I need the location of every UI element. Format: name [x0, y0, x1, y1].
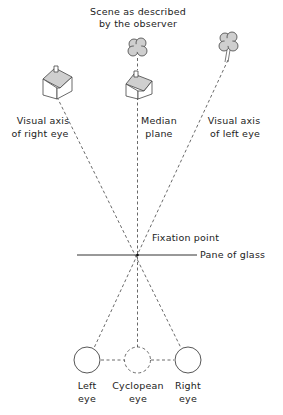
stereo-diagram — [0, 0, 283, 415]
cyclopean-eye-label-line1: Cyclopean — [107, 380, 169, 392]
tree-right-icon — [219, 32, 238, 51]
left-eye-axis — [94, 60, 228, 348]
left-eye-label-line1: Left — [67, 380, 107, 392]
right-axis-label-line2: of right eye — [6, 128, 74, 140]
right-eye-label-line1: Right — [168, 380, 208, 392]
house-left-icon — [43, 66, 72, 99]
median-label-line2: plane — [139, 128, 179, 140]
tree-center-icon — [128, 38, 147, 56]
house-center-icon — [126, 71, 152, 99]
cyclopean-eye-label-line2: eye — [107, 393, 169, 405]
median-label-line1: Median — [139, 115, 179, 127]
left-axis-label-line2: of left eye — [203, 128, 267, 140]
left-eye-label-line2: eye — [67, 393, 107, 405]
left-axis-label-line1: Visual axis — [203, 115, 265, 127]
right-axis-label-line1: Visual axis — [12, 115, 74, 127]
glass-label: Pane of glass — [200, 249, 265, 261]
right-eye — [175, 347, 201, 373]
left-eye — [74, 347, 100, 373]
cyclopean-eye — [125, 347, 151, 373]
fixation-point — [136, 254, 139, 257]
fixation-label: Fixation point — [152, 232, 219, 244]
right-eye-label-line2: eye — [168, 393, 208, 405]
